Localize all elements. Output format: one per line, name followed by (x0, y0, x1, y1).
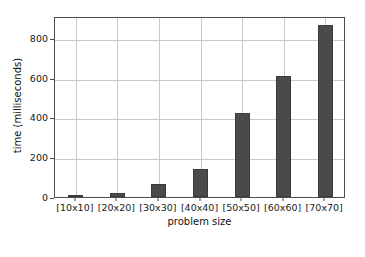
bar (318, 25, 333, 197)
gridline-y-800 (55, 40, 344, 41)
x-tick-mark (241, 197, 242, 201)
gridline-x-1 (117, 18, 118, 197)
x-tick-label: [50x50] (222, 202, 259, 213)
gridline-y-200 (55, 159, 344, 160)
bar (110, 193, 125, 197)
x-tick-mark (116, 197, 117, 201)
x-tick-label: [30x30] (139, 202, 176, 213)
bar (151, 184, 166, 197)
bar (193, 169, 208, 197)
x-tick-label: [60x60] (264, 202, 301, 213)
x-tick-mark (74, 197, 75, 201)
x-axis-tick-labels: [10x10][20x20][30x30][40x40][50x50][60x6… (54, 200, 345, 216)
x-axis-title: problem size (54, 216, 345, 227)
x-tick-label: [10x10] (56, 202, 93, 213)
bar (235, 113, 250, 197)
chart-screenshot: 0200400600800 [10x10][20x20][30x30][40x4… (0, 0, 365, 257)
y-tick-mark (50, 198, 54, 199)
x-tick-label: [70x70] (306, 202, 343, 213)
bar (68, 195, 83, 197)
gridline-y-600 (55, 80, 344, 81)
gridline-x-2 (159, 18, 160, 197)
gridline-y-400 (55, 119, 344, 120)
x-tick-mark (157, 197, 158, 201)
x-tick-mark (324, 197, 325, 201)
bar (276, 76, 291, 197)
y-axis-tick-marks (0, 17, 60, 198)
x-tick-mark (282, 197, 283, 201)
gridline-x-0 (76, 18, 77, 197)
x-tick-mark (199, 197, 200, 201)
x-tick-label: [20x20] (98, 202, 135, 213)
y-axis-title: time (milliseconds) (12, 16, 23, 196)
plot-area (54, 17, 345, 198)
x-tick-label: [40x40] (181, 202, 218, 213)
